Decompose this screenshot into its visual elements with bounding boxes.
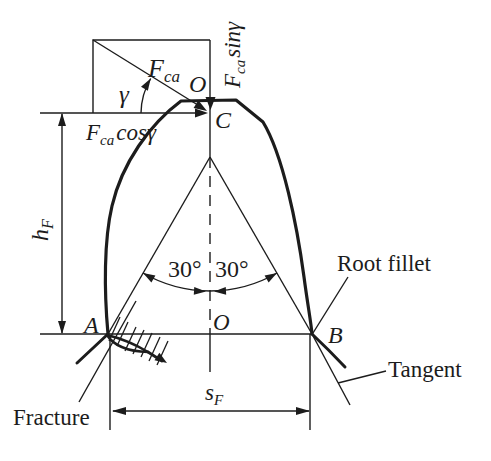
label-gamma: γ	[119, 81, 130, 108]
label-root-fillet: Root fillet	[337, 251, 432, 276]
label-point-root-center: O	[213, 310, 230, 335]
gear-tooth-root-stress-diagram: Fca γ O C Fcacosγ Fcasinγ hF 30° 30° A O…	[0, 0, 491, 461]
label-fca: Fca	[147, 54, 180, 86]
tangent-leader	[338, 371, 386, 383]
angle-leg-right	[210, 157, 312, 334]
label-sf: sF	[205, 380, 224, 408]
hf-arrowhead-top	[58, 113, 66, 126]
label-angle-left: 30°	[168, 256, 202, 282]
sf-arrowhead-left	[112, 407, 126, 415]
angle-arc-arrowhead-inner-right	[214, 287, 226, 296]
label-hf: hF	[27, 219, 56, 241]
label-point-root-left: A	[82, 312, 99, 338]
hf-arrowhead-bottom	[58, 321, 66, 334]
label-fca-sin: Fcasinγ	[220, 21, 248, 89]
angle-arc-arrowhead-right	[265, 270, 279, 283]
label-point-load: C	[215, 107, 232, 133]
sf-arrowhead-right	[296, 407, 310, 415]
angle-arc-arrowhead-left	[141, 270, 155, 283]
fca-sin-arrowhead	[206, 97, 216, 110]
label-fca-cos: Fcacosγ	[85, 120, 157, 148]
label-point-root-right: B	[328, 322, 343, 348]
label-fracture: Fracture	[13, 405, 90, 430]
label-point-tip: O	[189, 71, 206, 97]
angle-leg-left	[108, 157, 210, 334]
diagram-canvas: Fca γ O C Fcacosγ Fcasinγ hF 30° 30° A O…	[0, 0, 491, 461]
label-tangent: Tangent	[388, 357, 462, 382]
fca-vector-line	[93, 40, 201, 107]
label-angle-right: 30°	[215, 256, 249, 282]
angle-arc-arrowhead-inner-left	[194, 287, 206, 296]
